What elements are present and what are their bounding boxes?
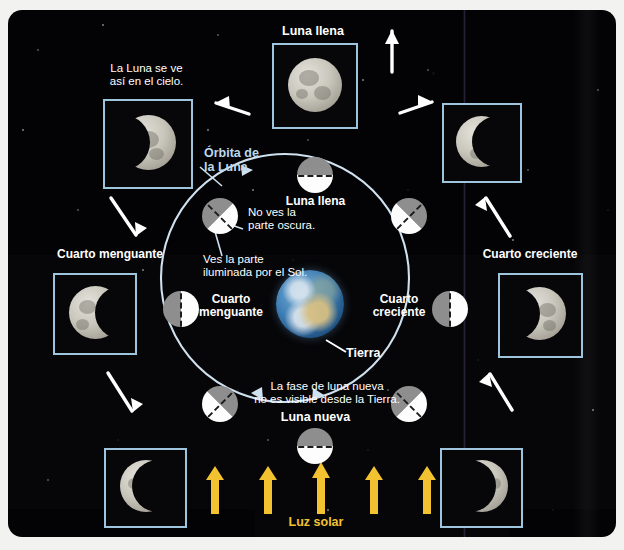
moon-photo-waxing-gibbous	[444, 105, 520, 181]
earth-globe[interactable]	[276, 270, 344, 338]
orbit-label: Órbita de la Luna	[204, 146, 299, 174]
arrow-line-photo-waxing-gibbous	[400, 102, 432, 113]
photo-label-first-quarter: Cuarto creciente	[448, 248, 612, 261]
arrow-line-photo-waning-crescent	[108, 373, 132, 411]
arrowhead-photo-waning-gibbous	[215, 96, 230, 109]
note-lit-line-1: Ves la parte	[203, 253, 321, 266]
sun-arrow-4	[365, 466, 383, 514]
arrowhead-photo-full-moon	[385, 30, 399, 44]
lq-line-2: menguante	[186, 306, 276, 319]
orbit-moon-full[interactable]	[297, 157, 333, 193]
photo-label-full-moon: Luna llena	[243, 24, 383, 38]
arrowhead-photo-waxing-crescent	[479, 373, 492, 387]
moon-terminator	[297, 175, 333, 177]
orbit-moon-waxing-gibbous[interactable]	[391, 198, 427, 234]
lq-line-1: Cuarto	[186, 293, 276, 306]
arrowhead-photo-last-quarter	[135, 222, 147, 236]
photo-label-last-quarter: Cuarto menguante	[30, 248, 190, 261]
caption-line-2: así en el cielo.	[94, 75, 199, 88]
note-lit-line-2: iluminada por el Sol.	[203, 266, 321, 279]
moon-photo-last-quarter	[55, 275, 135, 353]
moon-photo-first-quarter	[500, 275, 581, 356]
arrow-line-photo-waning-gibbous	[216, 103, 249, 114]
sun-arrows-group	[206, 462, 436, 514]
label-new-moon-diagram: Luna nueva	[263, 410, 368, 424]
moon-photo-full	[274, 45, 356, 127]
moon-terminator	[449, 291, 451, 327]
fq-line-1: Cuarto	[356, 293, 442, 306]
note-dark-side: No ves la parte oscura.	[248, 206, 348, 232]
sun-arrow-5	[418, 466, 436, 514]
moon-terminator	[180, 291, 182, 327]
sun-arrow-2	[259, 466, 277, 514]
orbit-label-line-2: la Luna	[204, 160, 299, 174]
moon-photo-waning-crescent	[106, 450, 185, 526]
note-dark-line-1: No ves la	[248, 206, 348, 219]
orbit-label-line-1: Órbita de	[204, 146, 299, 160]
night-sky-panel: La Luna se ve así en el cielo. Luna llen…	[8, 10, 616, 537]
fq-line-2: creciente	[356, 306, 442, 319]
caption-line-1: La Luna se ve	[94, 62, 199, 75]
note-lit-side: Ves la parte iluminada por el Sol.	[203, 253, 321, 279]
moon-terminator	[297, 446, 333, 448]
moon-photo-waxing-crescent	[442, 450, 521, 526]
photo-frame-full-moon[interactable]	[272, 43, 358, 129]
label-last-quarter-diagram: Cuarto menguante	[186, 293, 276, 320]
photo-frame-waning-gibbous[interactable]	[103, 99, 193, 189]
note-new-line-1: La fase de luna nueva	[212, 380, 442, 393]
orbit-moon-waning-gibbous[interactable]	[202, 198, 238, 234]
arrowhead-photo-waxing-gibbous	[418, 95, 433, 108]
label-earth: Tierra	[346, 346, 416, 360]
sun-arrow-1	[206, 466, 224, 514]
note-new-line-2: no es visible desde la Tierra.	[212, 393, 442, 406]
photo-caption-waning-gibbous: La Luna se ve así en el cielo.	[94, 62, 199, 88]
sun-arrow-3	[312, 462, 330, 514]
moon-photo-waning-gibbous	[105, 101, 191, 187]
orbit-moon-new[interactable]	[297, 428, 333, 464]
arrowhead-photo-first-quarter	[475, 197, 487, 211]
leader-earth	[326, 340, 346, 352]
photo-frame-waxing-gibbous[interactable]	[442, 103, 522, 183]
arrow-line-photo-last-quarter-top	[111, 198, 136, 235]
label-sunlight: Luz solar	[256, 515, 376, 529]
diagram-stage: La Luna se ve así en el cielo. Luna llen…	[0, 0, 624, 550]
arrow-line-photo-first-quarter-top	[486, 198, 510, 236]
photo-frame-first-quarter[interactable]	[498, 273, 583, 358]
photo-frame-last-quarter[interactable]	[53, 273, 137, 355]
note-new-moon: La fase de luna nueva no es visible desd…	[212, 380, 442, 406]
arrowhead-photo-waning-crescent	[131, 398, 143, 412]
label-first-quarter-diagram: Cuarto creciente	[356, 293, 442, 320]
note-dark-line-2: parte oscura.	[248, 219, 348, 232]
photo-frame-waxing-crescent[interactable]	[440, 448, 523, 528]
photo-frame-waning-crescent[interactable]	[104, 448, 187, 528]
arrow-line-photo-waxing-crescent	[490, 374, 512, 410]
